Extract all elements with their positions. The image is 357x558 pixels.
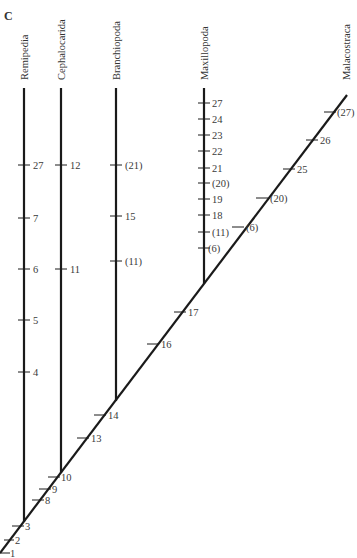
- char-label: 18: [212, 210, 223, 221]
- char-label: 22: [212, 146, 223, 157]
- taxon-label-malacostraca: Malacostraca: [341, 24, 352, 80]
- char-label: 14: [108, 410, 119, 421]
- char-label: 13: [91, 433, 102, 444]
- char-label: 16: [161, 339, 172, 350]
- char-label: (6): [208, 243, 221, 255]
- char-label: (11): [125, 256, 143, 268]
- char-label: 6: [33, 264, 38, 275]
- char-label: 1: [10, 548, 15, 558]
- cladogram: C Remipedia Cephalocarida Branchiopoda M…: [0, 0, 357, 558]
- taxon-label-remipedia: Remipedia: [19, 34, 30, 80]
- char-label: 15: [125, 211, 136, 222]
- char-label: 7: [33, 213, 38, 224]
- char-label: 12: [70, 160, 81, 171]
- panel-label: C: [4, 9, 13, 23]
- taxon-label-maxillopoda: Maxillopoda: [199, 26, 210, 80]
- taxon-label-cephalocarida: Cephalocarida: [56, 19, 67, 80]
- char-label: 26: [320, 135, 331, 146]
- char-label: (20): [212, 178, 230, 190]
- char-label: 2: [15, 535, 20, 546]
- char-label: 8: [45, 495, 50, 506]
- char-label: 27: [212, 98, 223, 109]
- taxon-label-branchiopoda: Branchiopoda: [111, 21, 122, 80]
- char-label: 5: [33, 315, 38, 326]
- char-label: 19: [212, 194, 223, 205]
- char-label: 17: [188, 307, 199, 318]
- char-label: (11): [212, 227, 230, 239]
- char-label: 23: [212, 130, 223, 141]
- char-label: 3: [25, 521, 30, 532]
- char-label: (21): [125, 160, 143, 172]
- char-label: 21: [212, 163, 223, 174]
- char-label: 27: [33, 160, 44, 171]
- char-label: 4: [33, 367, 39, 378]
- char-label: 9: [52, 484, 57, 495]
- char-label: 10: [61, 472, 72, 483]
- char-label: (20): [270, 193, 288, 205]
- char-label: (27): [337, 107, 355, 119]
- char-label: 25: [297, 164, 308, 175]
- char-label: (6): [246, 222, 259, 234]
- char-label: 24: [212, 114, 223, 125]
- char-label: 11: [70, 264, 80, 275]
